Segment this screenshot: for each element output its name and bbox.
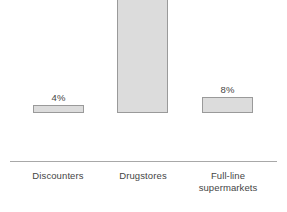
bar-rect[interactable] <box>33 105 84 113</box>
category-label-line1: Drugstores <box>119 170 166 181</box>
bar-value-label: 8% <box>221 84 235 95</box>
bar-rect[interactable] <box>202 97 253 113</box>
plot-area: 4% 63% 8% <box>0 0 287 163</box>
bar-group-full-line-supermarkets[interactable]: 8% <box>202 84 253 114</box>
category-label-line1: Discounters <box>32 170 83 181</box>
bar-chart: 4% 63% 8% Discounters Drugstores Full-li… <box>0 0 287 212</box>
x-axis-line <box>10 161 277 162</box>
bar-rect[interactable] <box>117 0 168 113</box>
category-label-line2: supermarkets <box>180 182 276 194</box>
category-label-full-line-supermarkets: Full-line supermarkets <box>180 170 276 194</box>
category-label-discounters: Discounters <box>10 170 106 182</box>
bar-value-label: 4% <box>52 92 66 103</box>
category-label-line1: Full-line <box>211 170 245 181</box>
category-label-drugstores: Drugstores <box>95 170 191 182</box>
bar-group-drugstores[interactable]: 63% <box>117 0 168 113</box>
bar-group-discounters[interactable]: 4% <box>33 92 84 114</box>
